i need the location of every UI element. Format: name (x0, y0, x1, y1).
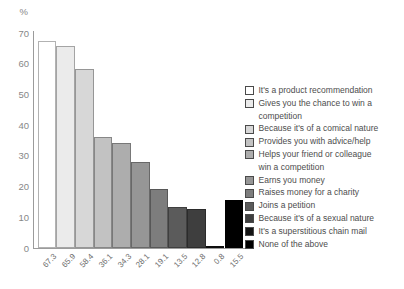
legend-swatch-icon (245, 214, 254, 223)
y-axis-tick-label: 30 (0, 150, 29, 161)
legend-item: Because it's of a comical nature (245, 122, 383, 135)
y-axis-tick-label: 50 (0, 89, 29, 100)
legend-label: It's a superstitious chain mail (259, 225, 383, 238)
y-axis-unit-label: % (0, 6, 28, 17)
legend-label: Because it's of a sexual nature (259, 212, 383, 225)
legend-item: Earns you money (245, 174, 383, 187)
legend-label: It's a product recommendation (259, 84, 383, 97)
bar (150, 189, 169, 248)
legend-item: Because it's of a sexual nature (245, 212, 383, 225)
legend-item: Gives you the chance to win a competitio… (245, 97, 383, 123)
bar (75, 69, 94, 248)
bar-chart: % 010203040506070 67.365.958.436.134.328… (0, 0, 404, 289)
legend-item: Joins a petition (245, 199, 383, 212)
legend-swatch-icon (245, 138, 254, 147)
bar (56, 46, 75, 248)
bar (38, 41, 57, 248)
legend-swatch-icon (245, 227, 254, 236)
y-axis-tick-label: 20 (0, 181, 29, 192)
legend-swatch-icon (245, 202, 254, 211)
legend-label: Earns you money (259, 174, 383, 187)
legend-item: It's a superstitious chain mail (245, 225, 383, 238)
legend-swatch-icon (245, 125, 254, 134)
y-axis-tick-label: 10 (0, 212, 29, 223)
bar (94, 137, 113, 248)
legend: It's a product recommendationGives you t… (245, 84, 383, 250)
y-axis-tick-label: 60 (0, 58, 29, 69)
legend-label: Gives you the chance to win a competitio… (259, 97, 383, 123)
y-axis-tick-label: 0 (0, 243, 29, 254)
legend-item: Provides you with advice/help (245, 135, 383, 148)
x-axis-line (33, 248, 248, 249)
legend-swatch-icon (245, 99, 254, 108)
legend-swatch-icon (245, 86, 254, 95)
legend-item: None of the above (245, 238, 383, 251)
y-axis-tick-label: 70 (0, 28, 29, 39)
bar (168, 207, 187, 248)
legend-swatch-icon (245, 240, 254, 249)
bar (225, 200, 244, 248)
legend-item: Helps your friend or colleague win a com… (245, 148, 383, 174)
y-axis-line (33, 31, 34, 248)
bar (131, 162, 150, 248)
legend-label: Because it's of a comical nature (259, 122, 383, 135)
y-axis-tick-label: 40 (0, 120, 29, 131)
legend-label: Joins a petition (259, 199, 383, 212)
legend-swatch-icon (245, 150, 254, 159)
bar (112, 143, 131, 248)
legend-item: It's a product recommendation (245, 84, 383, 97)
legend-label: Raises money for a charity (259, 186, 383, 199)
legend-label: None of the above (259, 238, 383, 251)
legend-swatch-icon (245, 176, 254, 185)
bar (206, 246, 225, 248)
legend-swatch-icon (245, 189, 254, 198)
bar (187, 209, 206, 248)
legend-item: Raises money for a charity (245, 186, 383, 199)
legend-label: Helps your friend or colleague win a com… (259, 148, 383, 174)
legend-label: Provides you with advice/help (259, 135, 383, 148)
